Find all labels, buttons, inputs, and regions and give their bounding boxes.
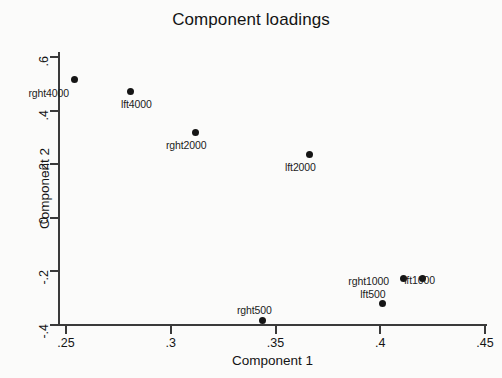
- x-tick-label: .25: [46, 336, 86, 350]
- x-tick-mark: [275, 326, 277, 334]
- x-tick-mark: [170, 326, 172, 334]
- y-tick-mark: [50, 56, 58, 58]
- x-tick-label: .35: [256, 336, 296, 350]
- data-point-marker[interactable]: [71, 76, 78, 83]
- x-tick-mark: [379, 326, 381, 334]
- x-tick-label: .3: [151, 336, 191, 350]
- data-point-label: lft2000: [285, 161, 316, 173]
- data-point-label: rght4000: [28, 87, 69, 99]
- x-tick-mark: [484, 326, 486, 334]
- y-tick-mark: [50, 324, 58, 326]
- data-point-marker[interactable]: [379, 300, 386, 307]
- data-point-label: lft1000: [404, 274, 435, 286]
- chart-title: Component loadings: [0, 10, 502, 30]
- y-tick-label: -.2: [37, 270, 51, 310]
- data-point-label: lft4000: [121, 98, 152, 110]
- data-point-marker[interactable]: [192, 129, 199, 136]
- scatter-plot-area: rght4000lft4000rght2000lft2000rght1000lf…: [58, 50, 488, 325]
- x-axis-title: Component 1: [58, 353, 487, 368]
- data-point-label: rght1000: [348, 275, 389, 287]
- data-point-marker[interactable]: [259, 317, 266, 324]
- y-tick-mark: [50, 270, 58, 272]
- data-point-marker[interactable]: [127, 88, 134, 95]
- chart-figure: Component loadings .6.4.20-.2-.4 .25.3.3…: [0, 0, 502, 378]
- x-tick-label: .4: [360, 336, 400, 350]
- data-point-label: rght500: [237, 304, 272, 316]
- data-point-label: rght2000: [166, 139, 207, 151]
- data-point-marker[interactable]: [306, 151, 313, 158]
- x-tick-label: .45: [465, 336, 502, 350]
- x-tick-mark: [65, 326, 67, 334]
- y-axis-title: Component 2: [37, 109, 52, 269]
- data-point-label: lft500: [360, 288, 385, 300]
